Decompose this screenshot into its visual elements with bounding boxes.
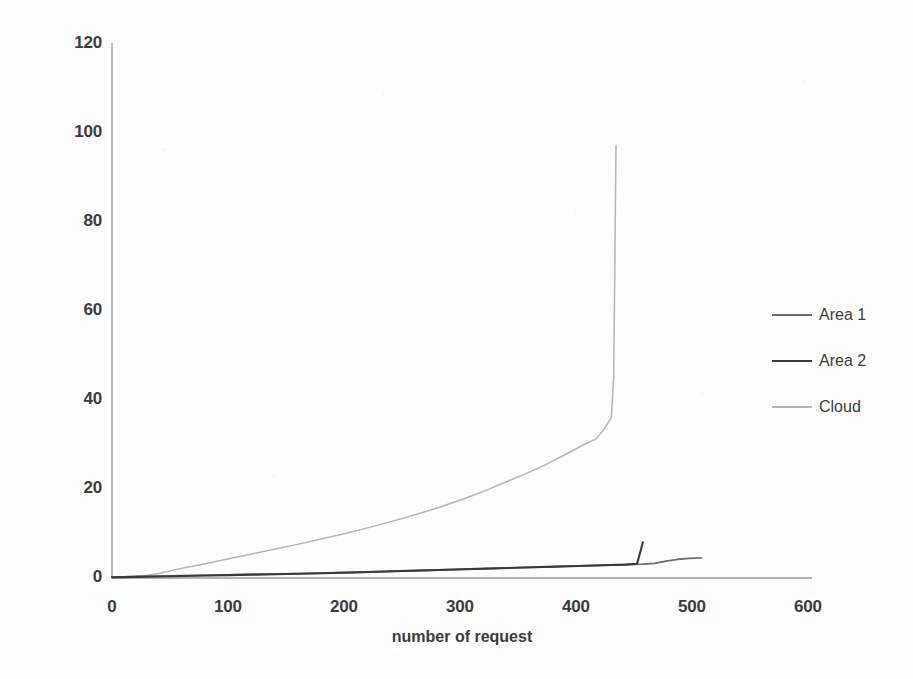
series-paths: [112, 146, 701, 578]
series-line-cloud: [112, 146, 616, 578]
series-line-area-1: [112, 558, 701, 577]
series-line-area-2: [112, 542, 643, 577]
axis-lines: [112, 43, 812, 578]
chart-page: 120 100 80 60 40 20 0 0 100 200 300 400 …: [0, 0, 913, 679]
chart-plot-area: [0, 0, 913, 679]
